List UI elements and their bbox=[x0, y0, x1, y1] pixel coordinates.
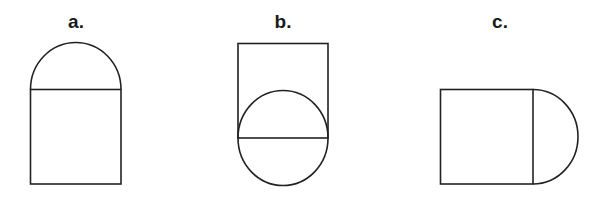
figure-a: a. bbox=[31, 11, 122, 184]
figure-a-label: a. bbox=[68, 11, 84, 32]
composite-shapes-diagram: a. b. c. bbox=[0, 0, 610, 197]
figure-c-semicircle bbox=[533, 90, 578, 185]
figure-b-label: b. bbox=[275, 11, 292, 32]
figure-a-semicircle bbox=[31, 42, 122, 89]
figure-a-square bbox=[31, 90, 122, 185]
figure-c-square bbox=[441, 90, 534, 185]
figure-b: b. bbox=[238, 11, 328, 186]
figure-c: c. bbox=[441, 11, 579, 184]
figure-c-label: c. bbox=[492, 11, 508, 32]
